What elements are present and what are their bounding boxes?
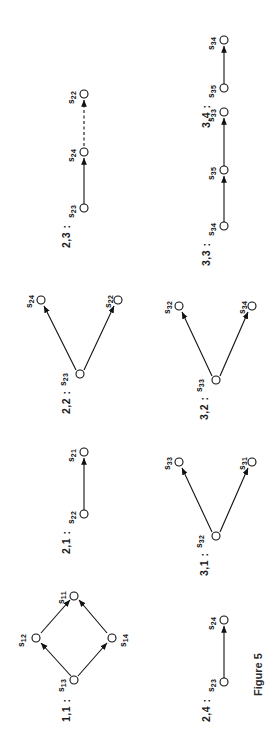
panel-3-4-graph bbox=[204, 14, 244, 94]
node-label-s32: s32 bbox=[194, 535, 205, 548]
panel-2-4: 2,4 : s23 s24 bbox=[160, 582, 270, 722]
node-s23 bbox=[76, 370, 84, 378]
panel-2-4-graph bbox=[204, 598, 244, 688]
edge-s33-s34 bbox=[220, 312, 248, 376]
panel-2-4-label: 2,4 : bbox=[200, 698, 212, 722]
node-s21 bbox=[80, 448, 88, 456]
panel-1-1-graph bbox=[14, 566, 134, 686]
node-s23 bbox=[220, 678, 228, 686]
node-s24 bbox=[220, 616, 228, 624]
node-label-s24: s24 bbox=[66, 149, 77, 162]
node-s35 bbox=[220, 84, 228, 92]
figure-caption: Figure 5 bbox=[252, 653, 264, 696]
panel-2-3: 2,3 : s23 s24 s22 bbox=[14, 78, 134, 248]
edge-s33-s32 bbox=[182, 312, 212, 376]
edge-s13-s14 bbox=[78, 643, 107, 676]
panel-2-2: 2,2 : s23 s24 s22 bbox=[14, 264, 144, 414]
node-s13 bbox=[70, 676, 78, 684]
panel-2-2-graph bbox=[20, 270, 140, 380]
node-s22 bbox=[80, 510, 88, 518]
panel-1-1: 1,1 : s13 s12 s11 s14 bbox=[14, 572, 134, 722]
node-label-s23: s23 bbox=[66, 205, 77, 218]
node-s24 bbox=[37, 296, 45, 304]
panel-3-2-label: 3,2 : bbox=[198, 396, 210, 420]
node-s35 bbox=[220, 166, 228, 174]
node-label-s34: s34 bbox=[206, 223, 217, 236]
panel-2-1-graph bbox=[64, 430, 104, 520]
edge-s14-s11 bbox=[79, 600, 107, 633]
rotated-page-wrapper: 1,1 : s13 s12 s11 s14 bbox=[0, 0, 278, 732]
panel-3-1-label: 3,1 : bbox=[198, 552, 210, 576]
panel-2-1: 2,1 : s22 s21 bbox=[14, 424, 134, 554]
node-label-s13: s13 bbox=[56, 679, 67, 692]
node-s22 bbox=[114, 296, 122, 304]
node-label-s32: s32 bbox=[162, 301, 173, 314]
node-label-s11: s11 bbox=[56, 591, 67, 604]
panel-2-1-label: 2,1 : bbox=[60, 530, 72, 554]
node-s12 bbox=[32, 634, 40, 642]
node-label-s33: s33 bbox=[194, 379, 205, 392]
node-label-s35: s35 bbox=[206, 85, 217, 98]
node-s33 bbox=[175, 458, 183, 466]
node-s33 bbox=[212, 376, 220, 384]
edge-s12-s11 bbox=[41, 600, 70, 633]
panel-3-4-label: 3,4 : bbox=[200, 104, 212, 128]
node-label-s22: s22 bbox=[66, 91, 77, 104]
node-s34 bbox=[248, 302, 256, 310]
node-s31 bbox=[248, 458, 256, 466]
node-label-s24: s24 bbox=[206, 617, 217, 630]
node-s34 bbox=[220, 36, 228, 44]
node-label-s23: s23 bbox=[206, 679, 217, 692]
node-label-s35: s35 bbox=[206, 167, 217, 180]
node-s24 bbox=[80, 148, 88, 156]
panel-3-3-label: 3,3 : bbox=[200, 242, 212, 266]
node-s32 bbox=[212, 532, 220, 540]
node-label-s31: s31 bbox=[237, 457, 248, 470]
node-s11 bbox=[70, 592, 78, 600]
edge-s13-s12 bbox=[41, 643, 71, 676]
node-label-s34: s34 bbox=[237, 301, 248, 314]
node-s32 bbox=[175, 302, 183, 310]
figure-page: 1,1 : s13 s12 s11 s14 bbox=[0, 0, 278, 732]
panel-3-1: 3,1 : s32 s33 s31 bbox=[152, 426, 277, 576]
node-label-s14: s14 bbox=[118, 634, 129, 647]
node-s23 bbox=[80, 204, 88, 212]
edge-s23-s24 bbox=[44, 306, 76, 370]
node-label-s23: s23 bbox=[58, 373, 69, 386]
node-label-s21: s21 bbox=[66, 449, 77, 462]
panel-3-2: 3,2 : s33 s32 s34 bbox=[152, 270, 277, 420]
panel-2-2-label: 2,2 : bbox=[60, 390, 72, 414]
node-s14 bbox=[108, 634, 116, 642]
edge-s32-s33 bbox=[182, 468, 212, 532]
node-s22 bbox=[80, 90, 88, 98]
node-label-s24: s24 bbox=[24, 295, 35, 308]
node-label-s22: s22 bbox=[66, 511, 77, 524]
panel-3-4: 3,4 : s35 s34 bbox=[160, 0, 270, 128]
edge-s32-s31 bbox=[220, 468, 248, 532]
node-label-s22: s22 bbox=[103, 295, 114, 308]
node-label-s34: s34 bbox=[206, 37, 217, 50]
node-label-s33: s33 bbox=[162, 457, 173, 470]
panel-2-3-label: 2,3 : bbox=[60, 224, 72, 248]
panel-3-1-graph bbox=[156, 432, 271, 542]
node-label-s12: s12 bbox=[16, 634, 27, 647]
panel-1-1-label: 1,1 : bbox=[60, 698, 72, 722]
node-s34 bbox=[220, 222, 228, 230]
edge-s23-s22 bbox=[84, 306, 114, 370]
panel-3-2-graph bbox=[156, 276, 271, 386]
